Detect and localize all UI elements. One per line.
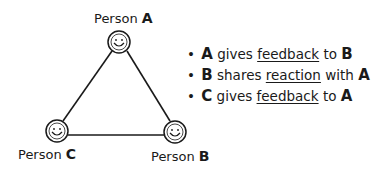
node-label-a: Person A xyxy=(94,10,153,26)
node-label-c: Person C xyxy=(18,146,76,162)
subject: B xyxy=(201,66,212,84)
smiley-icon-b xyxy=(164,121,186,143)
label-letter: B xyxy=(199,148,210,164)
edge-a-b xyxy=(127,51,170,121)
verb: gives xyxy=(217,88,253,104)
target: B xyxy=(341,45,352,63)
label-letter: A xyxy=(142,10,153,26)
bullet-dot: • xyxy=(187,44,197,65)
target: A xyxy=(358,66,370,84)
object: feedback xyxy=(257,46,319,62)
prep: to xyxy=(323,46,337,62)
verb: gives xyxy=(217,46,253,62)
triangle-edges xyxy=(63,51,170,135)
object: reaction xyxy=(266,67,321,83)
subject: C xyxy=(201,87,212,105)
interaction-list: • A gives feedback to B • B shares react… xyxy=(187,44,370,107)
label-letter: C xyxy=(66,146,76,162)
bullet-dot: • xyxy=(187,86,197,107)
prep: to xyxy=(323,88,337,104)
verb: shares xyxy=(217,67,261,83)
subject: A xyxy=(201,45,213,63)
target: A xyxy=(341,87,353,105)
object: feedback xyxy=(257,88,319,104)
label-prefix: Person xyxy=(18,147,62,162)
list-item: • C gives feedback to A xyxy=(187,86,370,107)
edge-a-c xyxy=(63,51,112,121)
label-prefix: Person xyxy=(151,149,195,164)
list-item: • A gives feedback to B xyxy=(187,44,370,65)
label-prefix: Person xyxy=(94,11,138,26)
prep: with xyxy=(325,67,354,83)
bullet-dot: • xyxy=(187,65,197,86)
list-item: • B shares reaction with A xyxy=(187,65,370,86)
smiley-icon-c xyxy=(46,120,68,142)
node-label-b: Person B xyxy=(151,148,210,164)
smiley-icon-a xyxy=(108,31,130,53)
